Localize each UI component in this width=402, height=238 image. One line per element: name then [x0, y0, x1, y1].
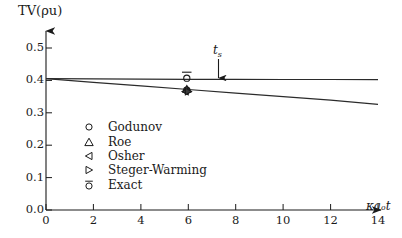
legend-label-steger-warming: Steger-Warming — [108, 164, 207, 176]
data-point-cluster-schemes — [182, 86, 191, 95]
circle-marker-icon — [76, 121, 102, 133]
legend-item-steger-warming: Steger-Warming — [76, 163, 256, 177]
curve-numerical — [46, 79, 378, 105]
legend-label-roe: Roe — [108, 136, 131, 148]
triangle-left-marker-icon — [76, 150, 102, 162]
y-axis-ticks — [46, 48, 52, 210]
curve-exact — [46, 79, 378, 80]
legend-label-osher: Osher — [108, 150, 145, 162]
legend-item-osher: Osher — [76, 149, 256, 163]
legend-label-exact: Exact — [108, 179, 142, 191]
triangle-up-marker-icon — [76, 136, 102, 148]
triangle-right-marker-icon — [76, 164, 102, 176]
circle-overbar-marker-icon — [76, 179, 102, 191]
figure-tv-rho-u-chart: TV(ρu) κaₒt 0.0 0.1 0.2 0.3 0.4 0.5 0 2 … — [0, 0, 402, 238]
data-point-exact — [182, 72, 192, 81]
ts-annotation-subscript: s — [218, 50, 222, 59]
legend-item-roe: Roe — [76, 134, 256, 148]
plot-area — [0, 0, 402, 238]
ts-annotation-label: ts — [213, 44, 222, 59]
legend: Godunov Roe Osher Steger-Warming — [76, 120, 256, 192]
legend-item-godunov: Godunov — [76, 120, 256, 134]
legend-item-exact: Exact — [76, 178, 256, 192]
x-axis-ticks — [46, 204, 378, 210]
legend-label-godunov: Godunov — [108, 121, 162, 133]
